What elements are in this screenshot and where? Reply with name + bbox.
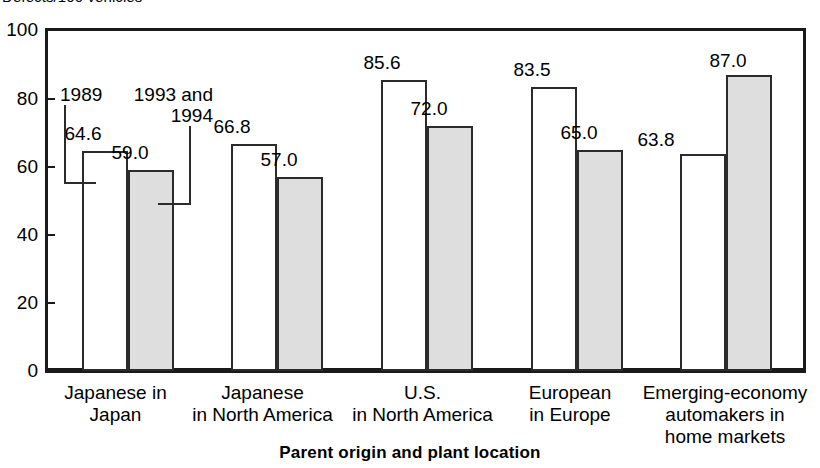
y-tick-label-60: 60 — [0, 157, 38, 176]
bar-us-in-north-america-1989 — [381, 80, 427, 371]
bar-emerging-economy-1989 — [680, 154, 726, 371]
value-label-63-8: 63.8 — [631, 130, 681, 149]
y-tick-label-20: 20 — [0, 293, 38, 312]
bar-european-in-europe-1993-1994 — [577, 150, 623, 371]
value-label-66-8: 66.8 — [207, 117, 257, 136]
leader-1989-vertical — [64, 105, 66, 183]
value-label-85-6: 85.6 — [357, 53, 407, 72]
bar-japanese-in-north-america-1993-1994 — [277, 177, 323, 371]
y-tick-label-0: 0 — [0, 361, 38, 380]
leader-1989-horizontal — [64, 182, 96, 184]
category-label-european-in-europe: European in Europe — [495, 382, 645, 426]
value-label-65-0: 65.0 — [554, 123, 604, 142]
category-line-1: U.S. — [335, 382, 510, 404]
y-axis-caption: Defects/100 vehicles — [2, 0, 142, 5]
leader-1993-1994-vertical — [189, 126, 191, 204]
category-line-2: in Europe — [495, 404, 645, 426]
y-tick-label-80: 80 — [0, 89, 38, 108]
value-label-87-0: 87.0 — [703, 51, 753, 70]
category-line-1: Japanese — [175, 382, 350, 404]
y-tick-label-100: 100 — [0, 20, 38, 39]
category-label-us-in-north-america: U.S. in North America — [335, 382, 510, 426]
category-line-2: in North America — [175, 404, 350, 426]
bar-chart: Defects/100 vehicles 100 80 60 40 20 0 6… — [0, 0, 820, 468]
bar-japanese-in-japan-1993-1994 — [128, 170, 174, 371]
value-label-57-0: 57.0 — [254, 150, 304, 169]
category-label-emerging-economy: Emerging-economy automakers in home mark… — [630, 382, 820, 448]
bars-layer — [45, 28, 806, 371]
value-label-72-0: 72.0 — [404, 99, 454, 118]
bar-emerging-economy-1993-1994 — [726, 75, 772, 371]
category-line-1: European — [495, 382, 645, 404]
value-label-83-5: 83.5 — [507, 60, 557, 79]
annotation-1993-1994-line1: 1993 and — [118, 84, 213, 105]
y-tick-label-40: 40 — [0, 225, 38, 244]
x-axis-title: Parent origin and plant location — [0, 443, 820, 463]
bar-japanese-in-japan-1989 — [82, 151, 128, 371]
annotation-1993-1994-line2: 1994 — [118, 105, 213, 126]
category-line-2: automakers in — [630, 404, 820, 426]
category-line-2: in North America — [335, 404, 510, 426]
annotation-1989: 1989 — [60, 84, 102, 105]
category-label-japanese-in-north-america: Japanese in North America — [175, 382, 350, 426]
bar-us-in-north-america-1993-1994 — [427, 126, 473, 371]
category-line-1: Emerging-economy — [630, 382, 820, 404]
leader-1993-1994-horizontal — [158, 203, 191, 205]
value-label-59-0: 59.0 — [105, 143, 155, 162]
bar-japanese-in-north-america-1989 — [231, 144, 277, 371]
